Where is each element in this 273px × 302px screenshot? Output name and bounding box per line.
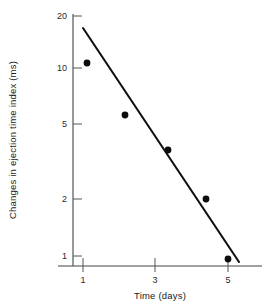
y-axis-ticks [73,16,82,256]
chart-plot-area: 20 10 5 2 1 1 3 5 Time (days) Changes in… [0,0,273,302]
data-point [165,147,172,154]
x-tick-label-3: 3 [152,275,157,285]
data-point [122,112,129,119]
y-tick-label-1: 1 [62,251,67,261]
y-tick-label-10: 10 [57,63,67,73]
data-point [225,256,232,263]
x-axis-ticks [83,258,228,272]
x-axis-title: Time (days) [134,290,186,301]
data-point [203,196,210,203]
y-tick-label-2: 2 [62,194,67,204]
y-tick-label-5: 5 [62,119,67,129]
data-point-group [84,60,232,263]
y-tick-label-20: 20 [57,11,67,21]
x-tick-label-1: 1 [80,275,85,285]
regression-line [83,28,239,262]
data-point [84,60,91,67]
x-tick-label-5: 5 [225,275,230,285]
chart-figure: 20 10 5 2 1 1 3 5 Time (days) Changes in… [0,0,273,302]
y-axis-title: Changes in ejection time index (ms) [7,61,18,219]
